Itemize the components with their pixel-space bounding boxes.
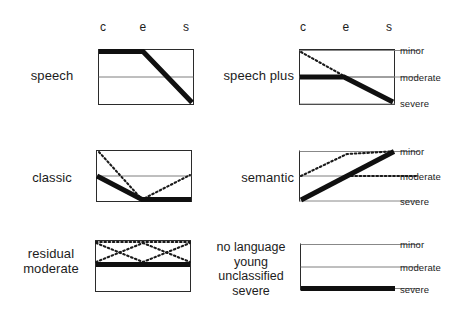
column-header-e-right: e [339,20,353,34]
trajectory-figure: c e s c e s speech speech plus minor mod… [0,0,460,315]
series-dotted-zig-a [96,243,190,262]
chart-speech-plus [299,49,395,105]
panel-label-semantic: semantic [218,170,294,185]
chart-semantic [299,150,395,202]
severity-label-minor-1: minor [400,45,424,56]
column-header-e-left: e [136,20,150,34]
column-header-s-right: s [382,20,396,34]
chart-speech-plus-svg [299,49,395,105]
column-header-s-left: s [179,20,193,34]
severity-label-moderate-3: moderate [400,262,441,273]
chart-residual-moderate [95,240,191,292]
chart-residual-moderate-svg [95,240,191,292]
severity-label-severe-2: severe [400,196,429,207]
chart-no-language-svg [300,243,396,291]
chart-classic-svg [96,150,192,202]
series-thick [300,77,393,102]
column-header-c-right: c [296,20,310,34]
panel-label-speech-plus: speech plus [212,68,294,83]
series-dotted-zig-b [96,243,190,262]
chart-speech-svg [98,49,194,105]
series-dotted-rise [301,152,391,177]
panel-label-speech: speech [16,68,88,83]
severity-label-severe-1: severe [400,98,429,109]
chart-semantic-svg [299,150,395,202]
chart-classic [96,150,192,202]
severity-label-minor-3: minor [400,239,424,250]
severity-label-moderate-2: moderate [400,171,441,182]
severity-label-severe-3: severe [400,284,429,295]
chart-no-language [300,243,396,291]
panel-label-no-language: no language young unclassified severe [205,240,297,298]
panel-label-residual-moderate: residual moderate [8,246,94,276]
panel-label-classic: classic [16,170,88,185]
severity-label-moderate-1: moderate [400,72,441,83]
severity-label-minor-2: minor [400,146,424,157]
chart-speech [98,49,194,105]
column-header-c-left: c [96,20,110,34]
series-thick [97,176,191,200]
series-dotted [301,52,345,77]
